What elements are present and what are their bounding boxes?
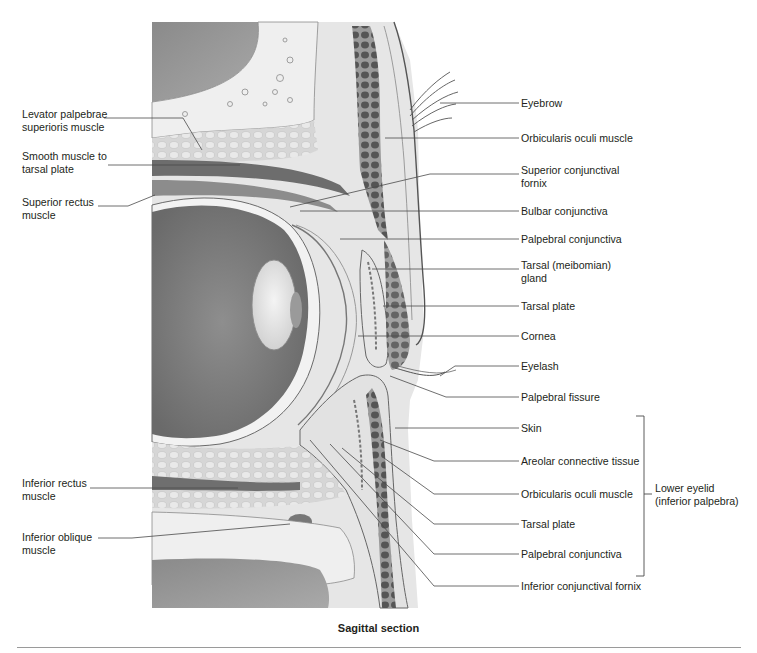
- label-line: Palpebral conjunctiva: [521, 233, 622, 246]
- label-line: superioris muscle: [22, 121, 107, 134]
- label-line: fornix: [521, 177, 619, 190]
- label-line: Skin: [521, 422, 542, 435]
- label-line: Palpebral conjunctiva: [521, 548, 622, 561]
- label-line: (inferior palpebra): [655, 495, 739, 508]
- label-eyebrow: Eyebrow: [521, 97, 562, 110]
- label-line: Lower eyelid: [655, 482, 739, 495]
- label-line: Tarsal plate: [521, 300, 575, 313]
- label-superior-conjunctival-fornix: Superior conjunctival fornix: [521, 164, 619, 189]
- label-line: Superior conjunctival: [521, 164, 619, 177]
- label-line: muscle: [22, 490, 87, 503]
- illustration-body: [152, 22, 458, 608]
- label-line: Cornea: [521, 330, 556, 343]
- label-tarsal-plate-lower: Tarsal plate: [521, 518, 575, 531]
- sagittal-eye-illustration: [0, 0, 757, 653]
- label-line: gland: [521, 272, 611, 285]
- label-orbicularis-upper: Orbicularis oculi muscle: [521, 132, 633, 145]
- label-line: Levator palpebrae: [22, 108, 107, 121]
- figure-caption: Sagittal section: [0, 622, 757, 634]
- label-palpebral-conjunctiva-upper: Palpebral conjunctiva: [521, 233, 622, 246]
- label-orbicularis-lower: Orbicularis oculi muscle: [521, 488, 633, 501]
- label-line: muscle: [22, 209, 94, 222]
- label-superior-rectus: Superior rectus muscle: [22, 196, 94, 221]
- bottom-divider: [17, 647, 741, 648]
- label-line: Orbicularis oculi muscle: [521, 488, 633, 501]
- lens: [252, 260, 296, 350]
- label-eyelash: Eyelash: [521, 360, 559, 373]
- label-inferior-conjunctival-fornix: Inferior conjunctival fornix: [521, 580, 641, 593]
- label-line: Inferior conjunctival fornix: [521, 580, 641, 593]
- label-line: Eyelash: [521, 360, 559, 373]
- lower-eyelid-bracket: [636, 416, 652, 576]
- label-palpebral-fissure: Palpebral fissure: [521, 391, 600, 404]
- label-palpebral-conjunctiva-lower: Palpebral conjunctiva: [521, 548, 622, 561]
- label-inferior-oblique: Inferior oblique muscle: [22, 531, 92, 556]
- label-line: Bulbar conjunctiva: [521, 205, 608, 218]
- label-line: Tarsal plate: [521, 518, 575, 531]
- label-line: Tarsal (meibomian): [521, 259, 611, 272]
- label-levator-palpebrae: Levator palpebrae superioris muscle: [22, 108, 107, 133]
- label-tarsal-plate-upper: Tarsal plate: [521, 300, 575, 313]
- label-line: Palpebral fissure: [521, 391, 600, 404]
- label-line: Orbicularis oculi muscle: [521, 132, 633, 145]
- label-line: Superior rectus: [22, 196, 94, 209]
- label-inferior-rectus: Inferior rectus muscle: [22, 477, 87, 502]
- label-smooth-muscle: Smooth muscle to tarsal plate: [22, 150, 107, 175]
- maxillary-sinus: [152, 558, 329, 608]
- label-line: muscle: [22, 544, 92, 557]
- label-line: Smooth muscle to: [22, 150, 107, 163]
- eyelid-diagram: Levator palpebrae superioris muscle Smoo…: [0, 0, 757, 653]
- label-bulbar-conjunctiva: Bulbar conjunctiva: [521, 205, 608, 218]
- eyebrow-hairs: [410, 72, 458, 132]
- label-tarsal-gland: Tarsal (meibomian) gland: [521, 259, 611, 284]
- label-line: tarsal plate: [22, 163, 107, 176]
- label-lower-eyelid-group: Lower eyelid (inferior palpebra): [655, 482, 739, 507]
- label-line: Inferior oblique: [22, 531, 92, 544]
- iris: [290, 292, 302, 328]
- label-line: Inferior rectus: [22, 477, 87, 490]
- label-areolar-connective-tissue: Areolar connective tissue: [521, 455, 639, 468]
- label-line: Areolar connective tissue: [521, 455, 639, 468]
- label-line: Eyebrow: [521, 97, 562, 110]
- label-cornea: Cornea: [521, 330, 556, 343]
- label-skin: Skin: [521, 422, 542, 435]
